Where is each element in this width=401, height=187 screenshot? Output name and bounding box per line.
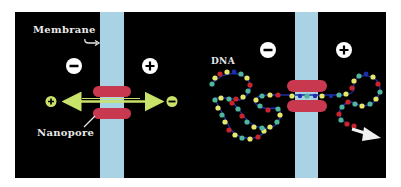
membrane-pointer-icon [85,39,99,46]
plus-end-icon [46,96,57,107]
exit-arrow-icon [352,127,381,141]
field-arrow [64,99,162,102]
plus-charge-icon-left [142,58,158,74]
nanopore-pointer-icon [84,116,95,127]
nanopore-diagram: Membrane Nanopore DNA [0,0,401,187]
dna-label: DNA [211,56,235,66]
plus-charge-icon-right [336,42,352,58]
minus-charge-icon-left [66,58,82,74]
nanopore-label: Nanopore [37,127,94,138]
minus-charge-icon-right [260,42,276,58]
membrane-label: Membrane [33,24,96,35]
minus-end-icon [167,96,178,107]
